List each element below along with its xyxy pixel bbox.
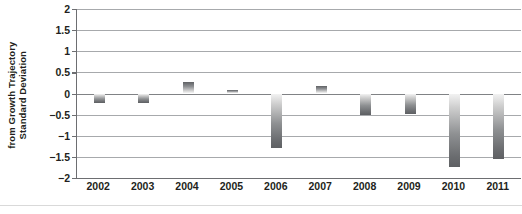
gridline: [77, 9, 521, 10]
bar: [449, 94, 460, 168]
bottom-divider: [0, 205, 522, 206]
y-axis-tick-label: −2: [58, 172, 70, 184]
x-axis-tick-label: 2011: [486, 180, 509, 192]
y-axis-tick-label: 0.5: [55, 66, 70, 78]
bar: [405, 94, 416, 114]
y-axis-title-line-2: from Growth Trajectory: [7, 41, 18, 148]
x-axis-tick-label: 2010: [442, 180, 465, 192]
x-axis-tick-label: 2006: [264, 180, 287, 192]
y-axis-tick-label: −1: [58, 130, 70, 142]
y-axis-tick-label: 2: [64, 3, 70, 15]
gridline: [77, 72, 521, 73]
y-axis-tick-mark: [72, 136, 77, 137]
y-axis-tick-labels: 21.510.50−0.5−1−1.5−2: [36, 0, 74, 214]
bar: [493, 94, 504, 159]
y-axis-tick-label: −1.5: [49, 151, 70, 163]
bar: [94, 94, 105, 103]
bar: [183, 82, 194, 93]
y-axis-tick-mark: [72, 30, 77, 31]
x-axis-tick-label: 2004: [175, 180, 198, 192]
y-axis-tick-mark: [72, 157, 77, 158]
x-axis-tick-label: 2005: [220, 180, 243, 192]
y-axis-title: Standard Deviation from Growth Trajector…: [0, 0, 36, 190]
bar: [271, 94, 282, 149]
x-axis-tick-label: 2008: [353, 180, 376, 192]
bar: [227, 90, 238, 93]
x-axis-tick-labels: 2002200320042005200620072008200920102011: [76, 180, 520, 198]
x-axis-tick-label: 2009: [397, 180, 420, 192]
bar: [138, 94, 149, 104]
plot-area: [76, 9, 521, 178]
x-axis-tick-label: 2002: [87, 180, 110, 192]
y-axis-tick-mark: [72, 51, 77, 52]
chart-container: Standard Deviation from Growth Trajector…: [0, 0, 522, 214]
y-axis-tick-mark: [72, 178, 77, 179]
y-axis-tick-mark: [72, 94, 77, 95]
bar: [316, 86, 327, 93]
y-axis-tick-label: 1.5: [55, 24, 70, 36]
y-axis-title-line-1: Standard Deviation: [18, 51, 29, 139]
y-axis-tick-mark: [72, 115, 77, 116]
y-axis-tick-mark: [72, 72, 77, 73]
gridline: [77, 51, 521, 52]
y-axis-tick-mark: [72, 9, 77, 10]
y-axis-tick-label: −0.5: [49, 109, 70, 121]
x-axis-tick-label: 2007: [309, 180, 332, 192]
bar: [360, 94, 371, 115]
x-axis-tick-label: 2003: [131, 180, 154, 192]
gridline: [77, 30, 521, 31]
y-axis-tick-label: 1: [64, 45, 70, 57]
y-axis-tick-label: 0: [64, 88, 70, 100]
